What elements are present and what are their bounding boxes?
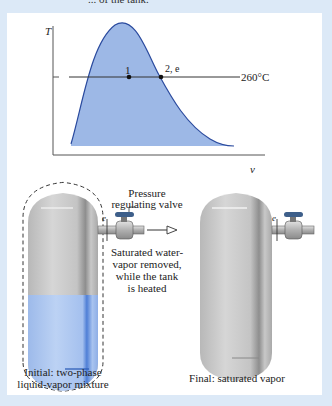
removed-line2: vapor removed, — [101, 258, 193, 270]
removed-line4: is heated — [101, 282, 193, 294]
tv-chart — [53, 23, 265, 155]
figure-panel: T v 1 2, e 260°C Pressure regulating val… — [7, 13, 322, 395]
final-tank — [200, 193, 314, 381]
t-axis-label: T — [45, 25, 51, 37]
tank-body-final — [200, 193, 272, 381]
v-axis-label: v — [250, 163, 255, 175]
exit-label-left: e — [102, 212, 106, 224]
exit-label-right: e — [272, 212, 276, 224]
initial-caption-line2: liquid-vapor mixture — [13, 378, 113, 390]
flow-arrowhead — [167, 226, 177, 234]
removed-line3: while the tank — [101, 270, 193, 282]
valve-handle-left — [115, 212, 134, 217]
cut-off-caption: ... of the tank. — [88, 0, 149, 5]
valve-label-line2: regulating valve — [102, 198, 192, 210]
isotherm-label: 260°C — [241, 71, 269, 83]
valve-body-left — [116, 221, 133, 239]
removed-line1: Saturated water- — [101, 246, 193, 258]
initial-caption-line1: Initial: two-phase — [13, 366, 113, 378]
point-1-label: 1 — [125, 64, 131, 76]
valve-body-right — [285, 221, 302, 239]
state-point-2 — [159, 75, 164, 80]
point-2-label: 2, e — [165, 63, 179, 75]
vapor-dome-fill — [71, 23, 234, 146]
final-caption: Final: saturated vapor — [187, 372, 287, 384]
valve-handle-right — [284, 212, 303, 217]
